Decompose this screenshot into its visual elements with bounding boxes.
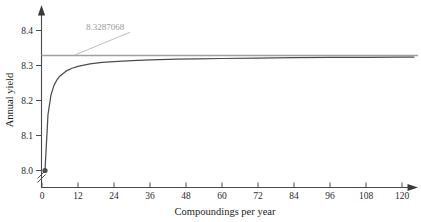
- x-tick-label: 120: [395, 191, 410, 201]
- x-tick-label: 48: [181, 191, 191, 201]
- x-axis-title: Compoundings per year: [175, 206, 276, 217]
- x-tick-label: 0: [40, 191, 45, 201]
- y-tick-label: 8.4: [21, 26, 33, 36]
- y-tick-labels: 8.4 8.3 8.2 8.1 8.0: [21, 26, 33, 176]
- y-tick-marks: [36, 31, 42, 171]
- annotation-leader-line: [75, 32, 130, 55]
- start-point-marker: [42, 168, 47, 173]
- x-tick-label: 84: [289, 191, 299, 201]
- x-tick-label: 72: [253, 191, 263, 201]
- yield-curve: [45, 57, 414, 170]
- x-tick-labels: 0 12 24 36 48 60 72 84 96 108 120: [40, 191, 410, 201]
- asymptote-value-label: 8.3287068: [86, 22, 125, 32]
- x-tick-label: 96: [325, 191, 335, 201]
- y-tick-label: 8.1: [21, 131, 33, 141]
- y-tick-label: 8.3: [21, 61, 33, 71]
- x-tick-label: 36: [145, 191, 155, 201]
- y-axis-title: Annual yield: [4, 72, 15, 127]
- chart-canvas: 8.4 8.3 8.2 8.1 8.0 0 12 24 36 48: [0, 0, 421, 222]
- y-tick-label: 8.0: [21, 166, 33, 176]
- x-tick-label: 24: [109, 191, 119, 201]
- x-tick-label: 12: [73, 191, 83, 201]
- x-tick-label: 108: [359, 191, 374, 201]
- x-tick-label: 60: [217, 191, 227, 201]
- chart-figure: 8.4 8.3 8.2 8.1 8.0 0 12 24 36 48: [0, 0, 421, 222]
- x-tick-marks: [42, 183, 402, 188]
- y-axis: [38, 5, 45, 188]
- y-tick-label: 8.2: [21, 96, 33, 106]
